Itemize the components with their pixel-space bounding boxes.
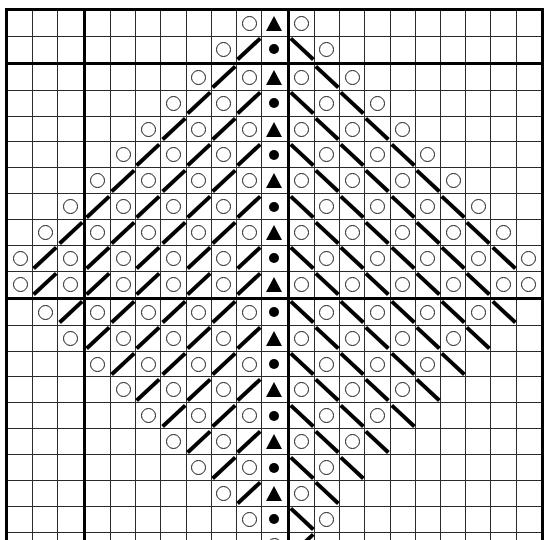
chart-cell[interactable] xyxy=(33,325,58,351)
chart-cell[interactable] xyxy=(314,455,339,481)
chart-cell[interactable] xyxy=(58,220,84,246)
chart-cell[interactable] xyxy=(161,325,186,351)
chart-cell[interactable] xyxy=(33,298,58,325)
chart-cell[interactable] xyxy=(288,246,314,272)
chart-cell[interactable] xyxy=(136,63,161,90)
chart-cell[interactable] xyxy=(491,36,516,63)
chart-cell[interactable] xyxy=(516,168,542,194)
chart-cell[interactable] xyxy=(491,377,516,403)
chart-cell[interactable] xyxy=(33,506,58,532)
chart-cell[interactable] xyxy=(33,377,58,403)
chart-cell[interactable] xyxy=(237,532,262,540)
chart-cell[interactable] xyxy=(288,506,314,532)
chart-cell[interactable] xyxy=(365,194,390,220)
chart-cell[interactable] xyxy=(58,506,84,532)
chart-cell[interactable] xyxy=(440,90,465,116)
chart-cell[interactable] xyxy=(110,90,135,116)
chart-cell[interactable] xyxy=(466,142,491,168)
chart-cell[interactable] xyxy=(390,455,415,481)
chart-cell[interactable] xyxy=(314,168,339,194)
chart-cell[interactable] xyxy=(84,351,110,377)
chart-cell[interactable] xyxy=(440,298,465,325)
chart-cell[interactable] xyxy=(466,36,491,63)
chart-cell[interactable] xyxy=(186,142,211,168)
chart-cell[interactable] xyxy=(365,351,390,377)
chart-cell[interactable] xyxy=(262,532,288,540)
chart-cell[interactable] xyxy=(288,220,314,246)
chart-cell[interactable] xyxy=(161,116,186,142)
chart-cell[interactable] xyxy=(58,271,84,298)
chart-cell[interactable] xyxy=(440,325,465,351)
chart-cell[interactable] xyxy=(58,403,84,429)
chart-cell[interactable] xyxy=(84,298,110,325)
chart-cell[interactable] xyxy=(314,194,339,220)
chart-cell[interactable] xyxy=(466,429,491,455)
chart-cell[interactable] xyxy=(262,481,288,507)
chart-cell[interactable] xyxy=(314,220,339,246)
chart-cell[interactable] xyxy=(186,90,211,116)
chart-cell[interactable] xyxy=(516,325,542,351)
chart-cell[interactable] xyxy=(33,36,58,63)
chart-cell[interactable] xyxy=(365,36,390,63)
chart-cell[interactable] xyxy=(516,246,542,272)
chart-cell[interactable] xyxy=(186,351,211,377)
chart-cell[interactable] xyxy=(186,10,211,37)
chart-cell[interactable] xyxy=(7,532,33,540)
chart-cell[interactable] xyxy=(390,220,415,246)
chart-cell[interactable] xyxy=(161,63,186,90)
chart-cell[interactable] xyxy=(440,63,465,90)
chart-cell[interactable] xyxy=(84,10,110,37)
chart-cell[interactable] xyxy=(415,298,440,325)
chart-cell[interactable] xyxy=(491,116,516,142)
chart-cell[interactable] xyxy=(33,429,58,455)
chart-cell[interactable] xyxy=(211,377,236,403)
chart-cell[interactable] xyxy=(516,298,542,325)
chart-cell[interactable] xyxy=(262,116,288,142)
chart-cell[interactable] xyxy=(288,403,314,429)
chart-cell[interactable] xyxy=(7,403,33,429)
chart-cell[interactable] xyxy=(84,429,110,455)
chart-cell[interactable] xyxy=(516,63,542,90)
chart-cell[interactable] xyxy=(440,271,465,298)
chart-cell[interactable] xyxy=(237,377,262,403)
chart-cell[interactable] xyxy=(340,506,365,532)
chart-cell[interactable] xyxy=(314,532,339,540)
chart-cell[interactable] xyxy=(136,246,161,272)
chart-cell[interactable] xyxy=(84,90,110,116)
chart-cell[interactable] xyxy=(84,168,110,194)
chart-cell[interactable] xyxy=(161,351,186,377)
chart-cell[interactable] xyxy=(415,36,440,63)
chart-cell[interactable] xyxy=(186,168,211,194)
chart-cell[interactable] xyxy=(136,455,161,481)
chart-cell[interactable] xyxy=(262,351,288,377)
chart-cell[interactable] xyxy=(288,455,314,481)
chart-cell[interactable] xyxy=(390,10,415,37)
chart-cell[interactable] xyxy=(288,481,314,507)
chart-cell[interactable] xyxy=(466,246,491,272)
chart-cell[interactable] xyxy=(415,403,440,429)
chart-cell[interactable] xyxy=(314,506,339,532)
chart-cell[interactable] xyxy=(84,142,110,168)
chart-cell[interactable] xyxy=(516,90,542,116)
chart-cell[interactable] xyxy=(211,429,236,455)
chart-cell[interactable] xyxy=(211,194,236,220)
chart-cell[interactable] xyxy=(340,481,365,507)
chart-cell[interactable] xyxy=(365,220,390,246)
chart-cell[interactable] xyxy=(110,325,135,351)
chart-cell[interactable] xyxy=(7,325,33,351)
chart-cell[interactable] xyxy=(58,455,84,481)
chart-cell[interactable] xyxy=(288,36,314,63)
chart-cell[interactable] xyxy=(161,194,186,220)
chart-cell[interactable] xyxy=(237,90,262,116)
chart-cell[interactable] xyxy=(186,271,211,298)
chart-cell[interactable] xyxy=(262,36,288,63)
chart-cell[interactable] xyxy=(390,325,415,351)
chart-cell[interactable] xyxy=(237,10,262,37)
chart-cell[interactable] xyxy=(211,246,236,272)
chart-cell[interactable] xyxy=(491,455,516,481)
chart-cell[interactable] xyxy=(340,36,365,63)
chart-cell[interactable] xyxy=(33,271,58,298)
chart-cell[interactable] xyxy=(262,246,288,272)
chart-cell[interactable] xyxy=(237,429,262,455)
chart-cell[interactable] xyxy=(516,36,542,63)
